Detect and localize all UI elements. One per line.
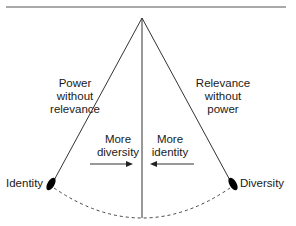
identity-label: Identity	[6, 177, 46, 190]
arrow-right-head-icon	[126, 161, 133, 167]
left-side-label: Power without relevance	[38, 77, 112, 116]
diversity-label: Diversity	[240, 177, 292, 190]
right-side-label: Relevance without power	[186, 77, 260, 116]
more-identity-label: More identity	[144, 133, 196, 159]
more-diversity-label: More diversity	[88, 133, 148, 159]
arrow-left-head-icon	[150, 161, 157, 167]
